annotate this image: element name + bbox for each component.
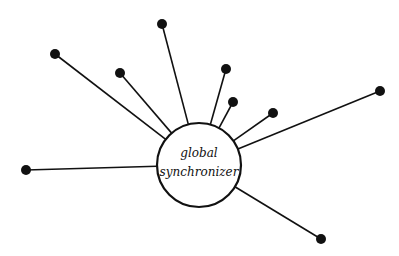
hub-label-line1: global <box>157 146 241 160</box>
node-n4 <box>221 64 231 74</box>
node-n2 <box>115 68 125 78</box>
edge-n8 <box>26 166 157 170</box>
edge-n9 <box>235 187 321 239</box>
edge-n3 <box>162 24 188 124</box>
edge-n4 <box>210 69 226 125</box>
node-n5 <box>228 97 238 107</box>
node-n3 <box>157 19 167 29</box>
node-n8 <box>21 165 31 175</box>
node-n1 <box>50 49 60 59</box>
edge-n1 <box>55 54 166 139</box>
diagram-canvas: global synchronizer <box>0 0 399 256</box>
edge-n7 <box>238 91 380 149</box>
hub-label-line2: synchronizer <box>157 165 241 179</box>
star-topology-graph <box>0 0 399 256</box>
node-n6 <box>268 108 278 118</box>
node-n9 <box>316 234 326 244</box>
node-n7 <box>375 86 385 96</box>
